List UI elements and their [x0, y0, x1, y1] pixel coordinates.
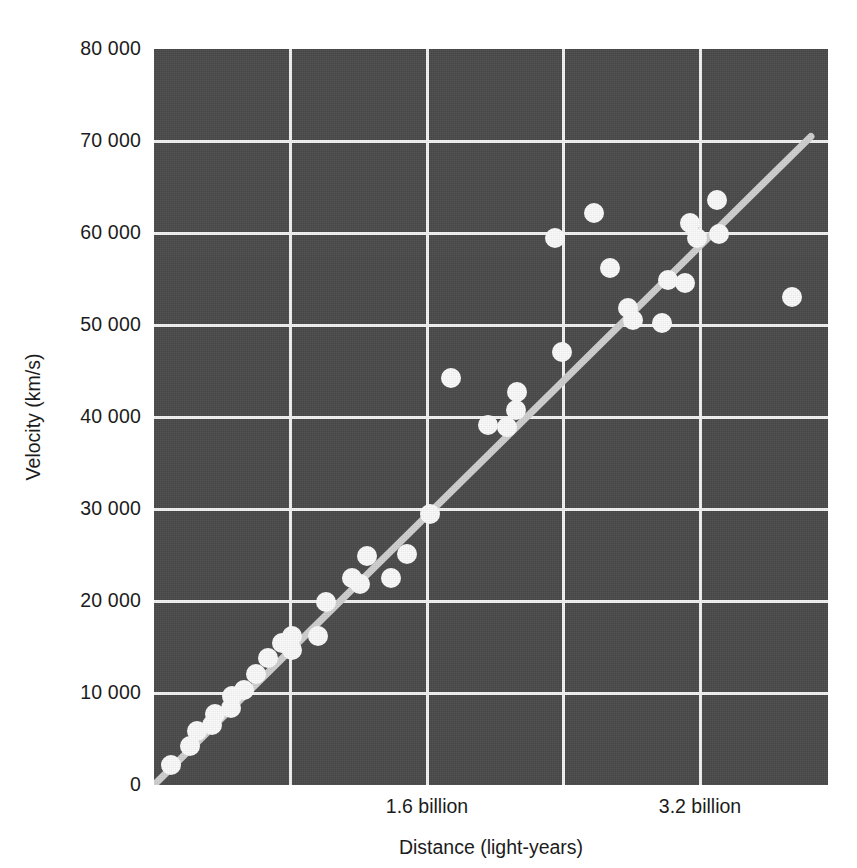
data-point [707, 190, 727, 210]
y-tick-label: 70 000 [1, 131, 141, 151]
x-axis-tick-labels: 1.6 billion3.2 billion [154, 797, 828, 823]
data-point [161, 755, 181, 775]
data-point [675, 273, 695, 293]
data-point [381, 568, 401, 588]
data-point [584, 203, 604, 223]
data-point [350, 574, 370, 594]
data-point [282, 640, 302, 660]
x-axis-title: Distance (light-years) [154, 836, 828, 859]
y-tick-label: 50 000 [1, 315, 141, 335]
data-point [497, 417, 517, 437]
data-point [420, 504, 440, 524]
gridline-horizontal-5 [154, 508, 828, 511]
data-point [687, 228, 707, 248]
data-point [507, 382, 527, 402]
data-point [623, 310, 643, 330]
data-point [652, 313, 672, 333]
y-axis-tick-labels: 80 00070 00060 00050 00040 00030 00020 0… [0, 49, 141, 785]
data-point [357, 546, 377, 566]
data-point [552, 342, 572, 362]
y-tick-label: 20 000 [1, 591, 141, 611]
plot-area [154, 49, 828, 785]
gridline-horizontal-7 [154, 692, 828, 695]
y-tick-label: 60 000 [1, 223, 141, 243]
x-tick-label: 1.6 billion [317, 797, 537, 817]
data-point [478, 415, 498, 435]
gridline-horizontal-3 [154, 324, 828, 327]
data-point [545, 228, 565, 248]
data-point [782, 287, 802, 307]
y-tick-label: 10 000 [1, 683, 141, 703]
y-tick-label: 80 000 [1, 39, 141, 59]
data-point [441, 368, 461, 388]
y-tick-label: 40 000 [1, 407, 141, 427]
data-point [600, 258, 620, 278]
x-tick-label: 3.2 billion [590, 797, 810, 817]
gridline-horizontal-6 [154, 600, 828, 603]
data-point [316, 592, 336, 612]
data-point [506, 400, 526, 420]
hubble-scatter-figure: Velocity (km/s) 80 00070 00060 00050 000… [0, 0, 857, 868]
data-point [308, 626, 328, 646]
data-point [709, 224, 729, 244]
data-point [397, 544, 417, 564]
gridline-horizontal-1 [154, 140, 828, 143]
y-tick-label: 0 [1, 775, 141, 795]
y-tick-label: 30 000 [1, 499, 141, 519]
